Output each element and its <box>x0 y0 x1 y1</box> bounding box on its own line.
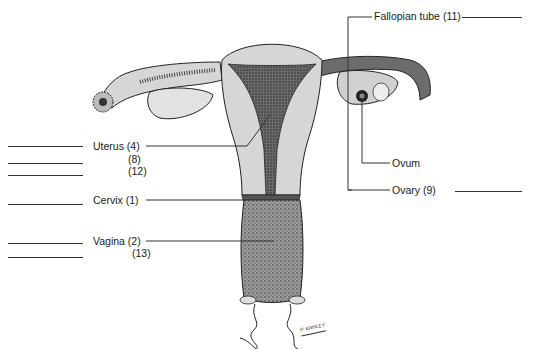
label-uterus-8: (8) <box>128 153 141 165</box>
right-ovary <box>337 70 398 104</box>
label-vagina-13: (13) <box>132 247 151 259</box>
label-ovary: Ovary (9) <box>392 184 436 196</box>
answer-blank-vagina-13[interactable] <box>8 257 83 258</box>
label-uterus-12: (12) <box>128 165 147 177</box>
left-fimbriae <box>93 92 113 112</box>
vulva-outline <box>240 304 298 349</box>
label-ovum: Ovum <box>392 157 420 169</box>
left-ovary <box>148 88 213 119</box>
answer-blank-fallopian-tube[interactable] <box>462 17 522 18</box>
label-uterus: Uterus (4) <box>93 140 140 152</box>
answer-blank-uterus-12[interactable] <box>8 175 83 176</box>
answer-blank-uterus-8[interactable] <box>8 163 83 164</box>
label-fallopian-tube: Fallopian tube (11) <box>374 10 461 22</box>
answer-blank-vagina-2[interactable] <box>8 243 83 244</box>
uterus <box>222 44 323 195</box>
label-cervix: Cervix (1) <box>93 194 139 206</box>
vagina <box>240 200 305 304</box>
answer-blank-ovary[interactable] <box>455 191 522 192</box>
label-vagina: Vagina (2) <box>93 235 141 247</box>
answer-blank-cervix[interactable] <box>8 204 83 205</box>
answer-blank-uterus-4[interactable] <box>8 146 83 147</box>
